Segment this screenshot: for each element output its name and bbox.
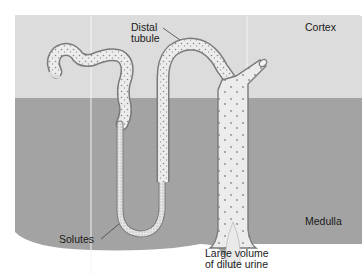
nephron-diagram: Cortex Medulla Distal tubule Solutes Lar…: [0, 0, 362, 274]
distal-tubule-label-line2: tubule: [131, 33, 160, 44]
solutes-label: Solutes: [59, 234, 94, 245]
medulla-region: [15, 98, 362, 255]
cortex-label: Cortex: [305, 22, 336, 33]
urine-label-line2: of dilute urine: [205, 259, 268, 270]
medulla-label: Medulla: [305, 216, 342, 227]
